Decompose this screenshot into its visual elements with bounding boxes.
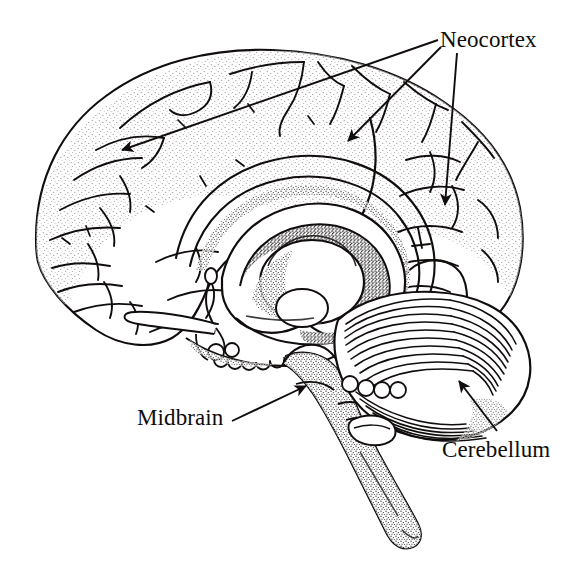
flocculus bbox=[349, 416, 396, 446]
mammillary-body bbox=[225, 343, 239, 357]
label-midbrain: Midbrain bbox=[137, 406, 223, 429]
optic-chiasm-knob bbox=[205, 268, 217, 284]
midline-nucleus bbox=[276, 289, 328, 327]
cerebellum-group bbox=[334, 292, 530, 446]
brain-diagram-figure: Neocortex Midbrain Cerebellum bbox=[0, 0, 588, 569]
label-cerebellum: Cerebellum bbox=[442, 438, 550, 461]
brain-illustration bbox=[0, 0, 588, 569]
label-neocortex: Neocortex bbox=[440, 28, 537, 51]
